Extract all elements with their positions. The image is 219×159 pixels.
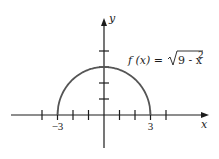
x-tick-label: −3 — [52, 120, 64, 132]
function-lhs: f (x) = — [127, 54, 163, 67]
x-tick-labels: −33 — [52, 120, 154, 132]
semicircle-plot: x y −33 f (x) = 9 - x 2 — [0, 0, 219, 159]
function-exponent: 2 — [198, 48, 204, 60]
y-axis-label: y — [108, 12, 116, 25]
svg-text:f (x) =: f (x) = — [127, 54, 163, 67]
x-axis-label: x — [201, 118, 208, 131]
y-axis-arrow-icon — [101, 18, 107, 26]
x-tick-label: 3 — [148, 120, 154, 132]
function-label: f (x) = 9 - x 2 — [127, 48, 204, 67]
